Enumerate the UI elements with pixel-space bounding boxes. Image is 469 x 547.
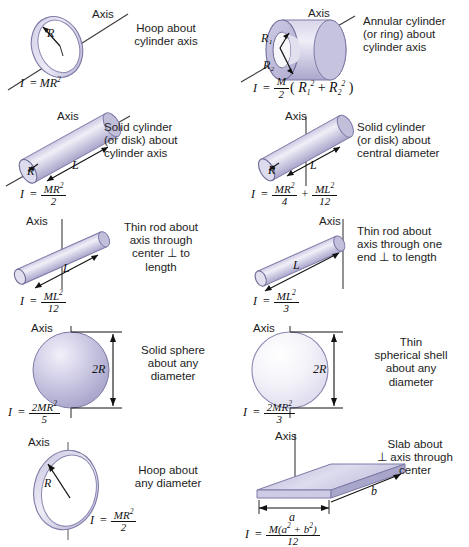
formula-fraction: M 2 bbox=[274, 76, 289, 100]
depth-label-b: b bbox=[371, 484, 377, 499]
formula-lhs: I bbox=[243, 405, 247, 420]
axis-label: Axis bbox=[57, 110, 79, 122]
axis-label: Axis bbox=[26, 215, 48, 227]
diameter-label-2R: 2R bbox=[92, 362, 105, 377]
panel-solid-sphere: Axis 2R Solid sphere about any diameter … bbox=[0, 318, 235, 428]
axis-label: Axis bbox=[285, 110, 307, 122]
formula-numerator-1: MR2 bbox=[272, 182, 298, 196]
formula-hoop-cylinder-axis: I = MR2 bbox=[20, 75, 61, 91]
panel-annular-cylinder: Axis R₁ R₂ Annular cylinder (or ring) ab… bbox=[235, 0, 469, 108]
axis-label: Axis bbox=[31, 322, 53, 334]
formula-lhs: I bbox=[20, 294, 24, 309]
axis-label: Axis bbox=[275, 430, 297, 442]
formula-thin-spherical-shell: I = 2MR2 3 bbox=[243, 400, 296, 426]
formula-solid-cylinder-central-diameter: I = MR2 4 + ML2 12 bbox=[251, 182, 338, 208]
radius-label-R: R bbox=[268, 163, 275, 178]
panel-hoop-any-diameter: Axis R Hoop about any diameter I = MR2 2 bbox=[0, 428, 235, 547]
formula-paren: ( R12 + R22 ) bbox=[290, 79, 353, 97]
length-label-L: L bbox=[72, 158, 79, 173]
formula-denominator-1: 4 bbox=[279, 196, 291, 208]
panel-solid-cylinder-central-diameter: Axis R L Solid cylinder (or disk) about … bbox=[235, 108, 469, 213]
formula-fraction-1: MR2 4 bbox=[272, 182, 298, 208]
panel-thin-spherical-shell: Axis 2R Thin spherical shell about any d… bbox=[235, 318, 469, 428]
radius-label-R2: R₂ bbox=[263, 58, 275, 73]
formula-lhs: I bbox=[253, 294, 257, 309]
panel-caption: Solid sphere about any diameter bbox=[118, 344, 228, 384]
formula-denominator: 2 bbox=[48, 196, 60, 208]
formula-numerator: 2MR2 bbox=[29, 400, 60, 414]
formula-denominator: 12 bbox=[45, 303, 62, 315]
length-label-L: L bbox=[310, 158, 317, 173]
formula-fraction: 2MR2 3 bbox=[264, 400, 295, 426]
formula-lhs: I bbox=[90, 513, 94, 528]
formula-thin-rod-center: I = ML2 12 bbox=[20, 289, 67, 315]
length-label-L: L bbox=[293, 258, 300, 273]
radius-label-R: R bbox=[27, 164, 34, 179]
panel-caption: Hoop about any diameter bbox=[112, 464, 224, 490]
formula-hoop-any-diameter: I = MR2 2 bbox=[90, 508, 137, 534]
formula-thin-rod-end: I = ML2 3 bbox=[253, 289, 300, 315]
formula-fraction: ML2 12 bbox=[41, 289, 66, 315]
axis-label: Axis bbox=[308, 7, 330, 19]
formula-denominator: 5 bbox=[39, 414, 51, 426]
formula-numerator: MR2 bbox=[41, 182, 67, 196]
formula-fraction: M(a2 + b2) 12 bbox=[266, 522, 320, 547]
panel-thin-rod-end: Axis L Thin rod about axis through one e… bbox=[235, 213, 469, 318]
formula-denominator: 2 bbox=[276, 89, 288, 101]
panel-caption: Thin rod about axis through one end ⊥ to… bbox=[357, 225, 469, 265]
hoop-cylinder-axis-figure bbox=[0, 0, 235, 108]
formula-numerator-2: ML2 bbox=[312, 182, 337, 196]
formula-numerator: ML2 bbox=[274, 289, 299, 303]
panel-caption: Thin rod about axis through center ⊥ to … bbox=[99, 221, 223, 274]
formula-operator: + bbox=[301, 187, 308, 202]
diameter-label-2R: 2R bbox=[313, 362, 326, 377]
formula-numerator: M(a2 + b2) bbox=[266, 522, 320, 536]
formula-denominator: 12 bbox=[284, 536, 301, 547]
formula-denominator-2: 12 bbox=[316, 196, 333, 208]
formula-fraction: 2MR2 5 bbox=[29, 400, 60, 426]
formula-annular-cylinder: I = M 2 ( R12 + R22 ) bbox=[253, 76, 353, 100]
panel-slab: Axis a b Slab about ⊥ axis through cente… bbox=[235, 428, 469, 547]
formula-solid-cylinder: I = MR2 2 bbox=[20, 182, 67, 208]
formula-lhs: I bbox=[245, 527, 249, 542]
formula-fraction: MR2 2 bbox=[41, 182, 67, 208]
axis-label: Axis bbox=[253, 322, 275, 334]
radius-label-R1: R₁ bbox=[261, 31, 273, 46]
formula-denominator: 2 bbox=[118, 522, 130, 534]
panel-caption: Annular cylinder (or ring) about cylinde… bbox=[363, 15, 467, 55]
length-label-L: L bbox=[63, 261, 70, 276]
formula-lhs: I bbox=[8, 405, 12, 420]
formula-expr: MR2 bbox=[40, 75, 61, 91]
formula-lhs: I bbox=[20, 187, 24, 202]
panel-caption: Solid cylinder (or disk) about cylinder … bbox=[104, 121, 226, 161]
formula-numerator: ML2 bbox=[41, 289, 66, 303]
panel-caption: Slab about ⊥ axis through center bbox=[363, 438, 467, 478]
formula-denominator: 3 bbox=[281, 303, 293, 315]
panel-hoop-cylinder-axis: Axis R Hoop about cylinder axis I = MR2 bbox=[0, 0, 235, 108]
axis-label: Axis bbox=[319, 215, 341, 227]
formula-denominator: 3 bbox=[274, 414, 286, 426]
formula-numerator: 2MR2 bbox=[264, 400, 295, 414]
radius-label-R: R bbox=[44, 476, 51, 491]
moment-of-inertia-table: Axis R Hoop about cylinder axis I = MR2 bbox=[0, 0, 469, 547]
panel-caption: Hoop about cylinder axis bbox=[110, 22, 222, 48]
formula-lhs: I bbox=[253, 81, 257, 96]
panel-caption: Solid cylinder (or disk) about central d… bbox=[357, 121, 469, 161]
formula-slab: I = M(a2 + b2) 12 bbox=[245, 522, 321, 547]
formula-numerator: MR2 bbox=[111, 508, 137, 522]
formula-lhs: I bbox=[251, 187, 255, 202]
formula-fraction: MR2 2 bbox=[111, 508, 137, 534]
panel-solid-cylinder-cylinder-axis: Axis R L Solid cylinder (or disk) about … bbox=[0, 108, 235, 213]
formula-solid-sphere: I = 2MR2 5 bbox=[8, 400, 61, 426]
radius-label-R: R bbox=[47, 26, 54, 41]
axis-label: Axis bbox=[92, 8, 114, 20]
formula-fraction: ML2 3 bbox=[274, 289, 299, 315]
panel-caption: Thin spherical shell about any diameter bbox=[355, 336, 467, 389]
formula-numerator: M bbox=[274, 76, 289, 89]
formula-fraction-2: ML2 12 bbox=[312, 182, 337, 208]
axis-label: Axis bbox=[28, 436, 50, 448]
panel-thin-rod-center: Axis L Thin rod about axis through cente… bbox=[0, 213, 235, 318]
formula-lhs: I bbox=[20, 76, 24, 91]
